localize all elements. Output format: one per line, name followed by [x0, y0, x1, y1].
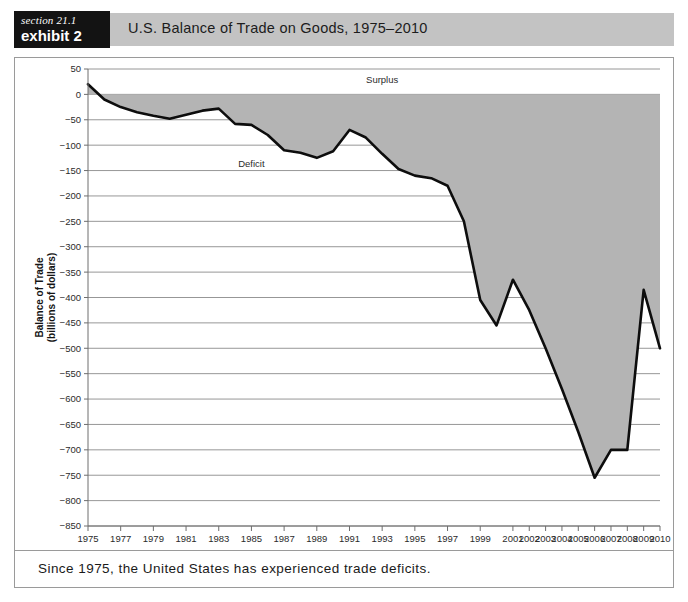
exhibit-title: U.S. Balance of Trade on Goods, 1975–201…: [128, 20, 428, 36]
svg-text:−450: −450: [60, 317, 81, 328]
svg-text:−550: −550: [60, 368, 81, 379]
svg-text:1979: 1979: [143, 533, 164, 544]
svg-text:−250: −250: [60, 216, 81, 227]
svg-text:0: 0: [76, 89, 81, 100]
svg-text:1985: 1985: [241, 533, 262, 544]
svg-text:1977: 1977: [110, 533, 131, 544]
svg-text:−850: −850: [60, 520, 81, 531]
exhibit-tag: section 21.1 exhibit 2: [14, 11, 110, 48]
svg-text:1989: 1989: [306, 533, 327, 544]
svg-text:2010: 2010: [649, 533, 670, 544]
section-label: section 21.1: [21, 14, 110, 27]
svg-text:50: 50: [70, 63, 81, 74]
svg-text:−500: −500: [60, 343, 81, 354]
svg-text:1993: 1993: [372, 533, 393, 544]
chart-panel: 500−50−100−150−200−250−300−350−400−450−5…: [14, 57, 674, 588]
svg-text:1991: 1991: [339, 533, 360, 544]
svg-text:1995: 1995: [404, 533, 425, 544]
svg-text:−400: −400: [60, 292, 81, 303]
svg-text:1999: 1999: [470, 533, 491, 544]
caption-bar: Since 1975, the United States has experi…: [15, 550, 673, 587]
y-axis-title-line2: (billions of dollars): [46, 253, 57, 342]
svg-text:1975: 1975: [77, 533, 98, 544]
exhibit-root: section 21.1 exhibit 2 U.S. Balance of T…: [0, 0, 688, 602]
svg-text:−350: −350: [60, 267, 81, 278]
svg-text:−750: −750: [60, 470, 81, 481]
svg-text:−200: −200: [60, 190, 81, 201]
exhibit-label: exhibit 2: [21, 27, 110, 44]
svg-text:Deficit: Deficit: [238, 158, 265, 169]
svg-text:1983: 1983: [208, 533, 229, 544]
svg-text:1987: 1987: [274, 533, 295, 544]
svg-text:−600: −600: [60, 393, 81, 404]
svg-text:−100: −100: [60, 140, 81, 151]
svg-text:−50: −50: [65, 114, 81, 125]
y-axis-title-line1: Balance of Trade: [34, 257, 45, 337]
svg-text:−650: −650: [60, 419, 81, 430]
svg-text:−700: −700: [60, 444, 81, 455]
svg-text:1997: 1997: [437, 533, 458, 544]
svg-text:Surplus: Surplus: [366, 74, 398, 85]
svg-text:1981: 1981: [175, 533, 196, 544]
svg-text:−300: −300: [60, 241, 81, 252]
x-axis: 1975197719791981198319851987198919911993…: [77, 526, 670, 544]
trade-balance-chart: 500−50−100−150−200−250−300−350−400−450−5…: [15, 58, 675, 552]
svg-text:−800: −800: [60, 495, 81, 506]
caption-text: Since 1975, the United States has experi…: [38, 561, 431, 576]
y-axis: 500−50−100−150−200−250−300−350−400−450−5…: [60, 63, 88, 531]
svg-text:−150: −150: [60, 165, 81, 176]
